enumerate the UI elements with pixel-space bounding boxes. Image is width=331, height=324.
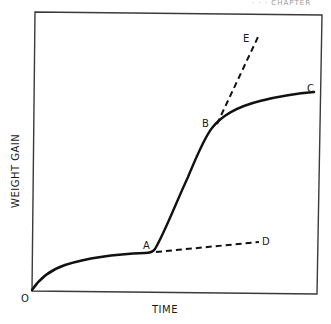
plot-frame xyxy=(32,12,322,294)
origin-label: O xyxy=(21,293,29,304)
extrapolation-line-be xyxy=(217,37,258,124)
y-axis-title: WEIGHT GAIN xyxy=(10,134,21,208)
growth-curve-oabc xyxy=(32,92,314,290)
x-axis-title: TIME xyxy=(151,304,178,315)
extrapolation-line-ad xyxy=(156,242,259,252)
point-label-c: C xyxy=(307,83,314,94)
point-label-e: E xyxy=(243,33,249,44)
point-label-a: A xyxy=(143,240,150,251)
running-head: · · · CHAPTER xyxy=(252,0,311,7)
point-label-b: B xyxy=(202,118,209,129)
point-label-d: D xyxy=(262,236,270,247)
weight-gain-diagram: · · · CHAPTER A B C D E O TIME WEIGHT GA… xyxy=(0,0,331,324)
